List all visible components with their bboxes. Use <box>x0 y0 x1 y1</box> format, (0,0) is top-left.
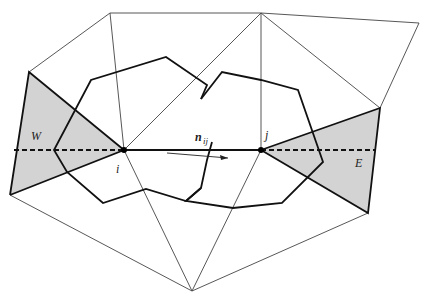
mesh-diagram: i j n ij W E <box>0 0 431 301</box>
node-j-dot <box>258 147 264 153</box>
label-n-subscript: ij <box>203 136 209 146</box>
label-e: E <box>354 156 363 170</box>
label-i: i <box>116 162 119 176</box>
node-i-dot <box>121 147 127 153</box>
label-n: n <box>195 130 202 144</box>
label-j: j <box>263 128 269 142</box>
label-w: W <box>31 129 42 143</box>
normal-arrow <box>167 153 228 160</box>
west-shaded-triangle <box>10 72 124 195</box>
